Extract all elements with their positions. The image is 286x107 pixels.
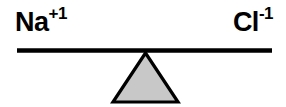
ion-symbol-chloride: Cl <box>233 7 259 37</box>
balance-diagram: Na+1 Cl-1 <box>0 0 286 107</box>
ion-label-sodium: Na+1 <box>15 9 67 36</box>
ion-charge-chloride: -1 <box>259 4 273 23</box>
ion-charge-sodium: +1 <box>49 4 67 23</box>
ion-symbol-sodium: Na <box>15 7 49 37</box>
ion-label-chloride: Cl-1 <box>233 9 273 36</box>
